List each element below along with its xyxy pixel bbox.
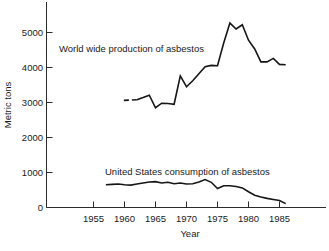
- x-tick-label-1970: 1970: [176, 213, 197, 224]
- x-axis-ticks: [94, 202, 280, 208]
- us-consumption-label: United States consumption of asbestos: [105, 166, 270, 177]
- y-tick-label-0: 0: [38, 202, 43, 213]
- y-axis-tick-labels: 0 1000 2000 3000 4000 5000: [22, 27, 43, 213]
- y-tick-label-2000: 2000: [22, 132, 43, 143]
- y-tick-label-1000: 1000: [22, 167, 43, 178]
- asbestos-production-figure: 0 1000 2000 3000 4000 5000 Metric tons: [0, 0, 329, 251]
- world-production-label: World wide production of asbestos: [59, 43, 204, 54]
- y-tick-label-5000: 5000: [22, 27, 43, 38]
- y-axis: 0 1000 2000 3000 4000 5000 Metric tons: [2, 2, 53, 213]
- x-axis-tick-labels: 1955 1960 1965 1970 1975 1980 1985: [83, 213, 290, 224]
- series-annotations: World wide production of asbestos United…: [59, 43, 270, 177]
- x-tick-label-1985: 1985: [269, 213, 290, 224]
- x-tick-label-1975: 1975: [207, 213, 228, 224]
- x-tick-label-1960: 1960: [114, 213, 135, 224]
- y-tick-label-4000: 4000: [22, 62, 43, 73]
- line-chart: 0 1000 2000 3000 4000 5000 Metric tons: [0, 0, 329, 251]
- x-tick-label-1980: 1980: [238, 213, 259, 224]
- x-tick-label-1955: 1955: [83, 213, 104, 224]
- y-axis-ticks: [47, 33, 53, 208]
- world-production-line: [137, 23, 286, 108]
- us-consumption-line: [106, 180, 286, 204]
- x-axis-title: Year: [180, 228, 199, 239]
- x-axis: 1955 1960 1965 1970 1975 1980 1985 Year: [47, 202, 327, 240]
- x-tick-label-1965: 1965: [145, 213, 166, 224]
- y-axis-title: Metric tons: [2, 82, 13, 129]
- world-production-dashed-segment: [124, 100, 137, 101]
- y-tick-label-3000: 3000: [22, 97, 43, 108]
